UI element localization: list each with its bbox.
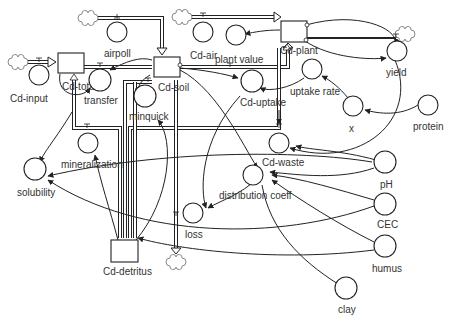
cd-waste-label: Cd-waste [262, 157, 305, 168]
airpoll-label: airpoll [104, 48, 131, 59]
cd-soil-label: Cd-soil [158, 82, 189, 93]
cloud-source-air-icon [172, 9, 192, 24]
plant-value-label: plant value [215, 54, 264, 65]
loss-pipe [171, 80, 181, 254]
converter-protein[interactable]: protein [413, 95, 444, 132]
flow-loss[interactable]: loss [183, 203, 203, 240]
cloud-source-input-icon [8, 54, 28, 69]
clay-label: clay [338, 304, 356, 315]
ph-label: pH [380, 179, 393, 190]
flow-cd-input[interactable]: Cd-input [10, 65, 49, 104]
humus-label: humus [372, 263, 402, 274]
converter-clay[interactable]: clay [335, 277, 357, 315]
mineralization-label: mineralization [61, 159, 123, 170]
cd-detritus-label: Cd-detritus [103, 266, 152, 277]
converter-ph[interactable]: pH [374, 151, 396, 190]
solubility-label: solubility [17, 187, 55, 198]
cd-plant-label: Cd-plant [280, 45, 318, 56]
converter-uptake-rate[interactable]: uptake rate [290, 59, 340, 97]
cd-input-label: Cd-input [10, 93, 48, 104]
loss-label: loss [185, 229, 203, 240]
converter-x[interactable]: x [343, 96, 363, 134]
cec-label: CEC [377, 219, 398, 230]
flow-mineralization[interactable]: mineralization [61, 133, 123, 170]
cloud-source-airpoll-icon [78, 10, 98, 25]
cloud-sink-loss-icon [166, 254, 186, 269]
converter-distribution-coeff[interactable]: distribution coeff [219, 165, 292, 201]
minquick-label: minquick [129, 111, 169, 122]
converter-plant-value[interactable]: plant value [215, 25, 264, 65]
transfer-label: transfer [84, 95, 119, 106]
flow-cd-air[interactable]: Cd-air [190, 22, 218, 61]
distribution-coeff-label: distribution coeff [219, 190, 292, 201]
flow-airpoll[interactable]: airpoll [104, 22, 131, 59]
flow-yield[interactable]: yield [386, 41, 407, 78]
cd-uptake-label: Cd-uptake [240, 97, 287, 108]
cd-air-pipe [188, 12, 281, 22]
uptake-rate-label: uptake rate [290, 86, 340, 97]
yield-label: yield [386, 67, 407, 78]
stock-cd-soil[interactable]: Cd-soil [154, 57, 189, 93]
converter-humus[interactable]: humus [372, 235, 402, 274]
converter-cec[interactable]: CEC [374, 193, 398, 230]
protein-label: protein [413, 121, 444, 132]
stock-cd-detritus[interactable]: Cd-detritus [103, 240, 152, 277]
stock-flow-diagram: Cd-total Cd-soil Cd-plant Cd-detritus Cd… [0, 0, 451, 324]
valve-icons [36, 13, 399, 216]
cd-air-label: Cd-air [190, 50, 218, 61]
converter-solubility[interactable]: solubility [17, 158, 55, 198]
x-label: x [349, 123, 354, 134]
